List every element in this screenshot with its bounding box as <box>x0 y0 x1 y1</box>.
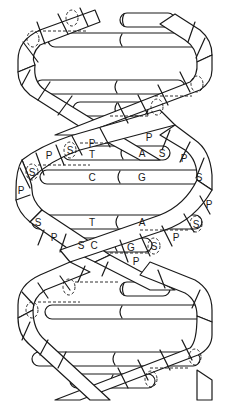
label-phosphate: P <box>206 199 213 210</box>
label-base-cytosine: C <box>90 240 97 251</box>
helix-drawing: P S T P P A S P S C G S P P S T A S P P … <box>0 0 235 401</box>
label-sugar: S <box>29 167 36 178</box>
label-base-adenine: A <box>139 148 146 159</box>
label-phosphate: P <box>46 150 53 161</box>
label-phosphate: P <box>51 232 58 243</box>
label-phosphate: P <box>181 153 188 164</box>
hidden-sugars <box>26 10 203 387</box>
label-base-cytosine: C <box>88 172 95 183</box>
label-phosphate: P <box>173 232 180 243</box>
label-sugar: S <box>151 241 158 252</box>
label-sugar: S <box>35 217 42 228</box>
label-sugar: S <box>193 219 200 230</box>
label-sugar: S <box>196 172 203 183</box>
label-base-guanine: G <box>127 242 135 253</box>
label-phosphate: P <box>133 256 140 267</box>
label-sugar: S <box>159 148 166 159</box>
label-sugar: S <box>78 240 85 251</box>
label-phosphate: P <box>18 185 25 196</box>
label-base-thymine: T <box>89 217 95 228</box>
label-base-guanine: G <box>138 172 146 183</box>
label-phosphate: P <box>146 132 153 143</box>
label-phosphate: P <box>89 138 96 149</box>
dna-double-helix-diagram: P S T P P A S P S C G S P P S T A S P P … <box>0 0 235 401</box>
backbone-segment-dividers <box>16 8 210 388</box>
label-sugar: S <box>67 145 74 156</box>
base-pair-rungs <box>32 13 206 388</box>
label-base-adenine: A <box>139 217 146 228</box>
label-base-thymine: T <box>89 149 95 160</box>
